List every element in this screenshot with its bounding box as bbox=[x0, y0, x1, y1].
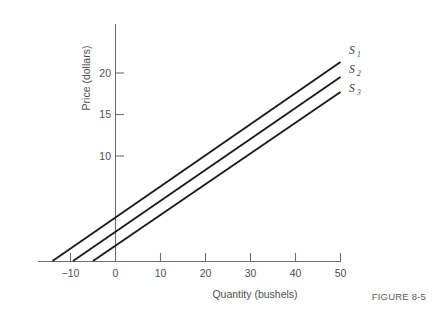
series-label-s1: S 1 bbox=[349, 44, 361, 59]
series-line-s2 bbox=[73, 77, 341, 261]
y-tick-label-20: 20 bbox=[99, 67, 111, 79]
figure-caption: FIGURE 8-5 bbox=[372, 291, 426, 302]
series-label-s2-base: S bbox=[349, 63, 355, 75]
supply-curve-chart: 20 15 10 −10 0 10 20 30 40 50 S 1 S bbox=[0, 0, 432, 316]
series-label-s3-base: S bbox=[349, 82, 355, 94]
y-axis-title: Price (dollars) bbox=[80, 46, 92, 111]
x-axis-title: Quantity (bushels) bbox=[212, 288, 297, 300]
series-label-s2-sub: 2 bbox=[357, 69, 361, 78]
x-tick-label-40: 40 bbox=[290, 267, 302, 279]
series-label-s3-sub: 3 bbox=[356, 88, 361, 97]
x-tick-marks bbox=[71, 253, 341, 262]
series-label-s1-base: S bbox=[349, 44, 355, 56]
x-tick-label-30: 30 bbox=[245, 267, 257, 279]
x-tick-label-50: 50 bbox=[335, 267, 347, 279]
y-tick-marks bbox=[116, 73, 125, 156]
x-tick-label-0: 0 bbox=[113, 267, 119, 279]
series-label-s1-sub: 1 bbox=[357, 50, 361, 59]
series-label-s3: S 3 bbox=[349, 82, 361, 97]
y-tick-label-15: 15 bbox=[99, 108, 111, 120]
x-tick-label-10: 10 bbox=[155, 267, 167, 279]
x-tick-label-minus10: −10 bbox=[62, 267, 80, 279]
series-line-s3 bbox=[93, 92, 341, 261]
figure-container: 20 15 10 −10 0 10 20 30 40 50 S 1 S bbox=[0, 0, 432, 316]
x-tick-label-20: 20 bbox=[200, 267, 212, 279]
series-label-s2: S 2 bbox=[349, 63, 361, 78]
y-tick-label-10: 10 bbox=[99, 150, 111, 162]
series-line-s1 bbox=[53, 62, 341, 261]
